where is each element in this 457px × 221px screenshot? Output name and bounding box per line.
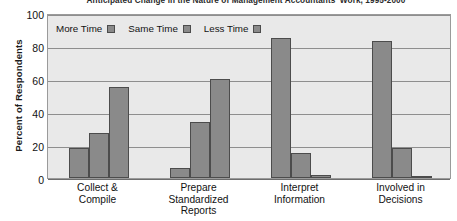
x-category-label: PrepareStandardizedReports bbox=[148, 182, 249, 217]
x-category-label-line: Reports bbox=[148, 205, 249, 217]
bar bbox=[372, 41, 392, 178]
plot-inner: 020406080100 bbox=[48, 15, 450, 178]
x-category-label-line: Decisions bbox=[350, 194, 451, 206]
x-category-label-line: Standardized bbox=[148, 194, 249, 206]
legend-label: Less Time bbox=[204, 23, 249, 34]
bar-group bbox=[250, 15, 351, 178]
plot-area: 020406080100 More TimeSame TimeLess Time bbox=[47, 14, 451, 179]
y-axis-title: Percent of Respondents bbox=[13, 31, 24, 161]
bar bbox=[412, 176, 432, 178]
bar bbox=[311, 175, 331, 178]
y-tick-label: 20 bbox=[32, 141, 44, 153]
bar bbox=[190, 122, 210, 178]
x-category-label-line: Collect & bbox=[47, 182, 148, 194]
chart-legend: More TimeSame TimeLess Time bbox=[56, 23, 261, 34]
y-tick-label: 80 bbox=[32, 42, 44, 54]
bar-group bbox=[48, 15, 149, 178]
gridline-0 bbox=[48, 179, 450, 180]
bar-chart-figure: Anticipated Change in the Nature of Mana… bbox=[0, 0, 457, 221]
legend-swatch bbox=[107, 25, 115, 33]
x-category-label-line: Interpret bbox=[249, 182, 350, 194]
legend-item: More Time bbox=[56, 23, 115, 34]
y-tick-label: 60 bbox=[32, 75, 44, 87]
x-category-label-line: Information bbox=[249, 194, 350, 206]
bar bbox=[170, 168, 190, 178]
legend-swatch bbox=[253, 25, 261, 33]
legend-item: Same Time bbox=[128, 23, 191, 34]
bar bbox=[392, 148, 412, 178]
bar-group bbox=[351, 15, 452, 178]
y-tick-label: 0 bbox=[38, 174, 44, 186]
bar bbox=[69, 148, 89, 178]
chart-title: Anticipated Change in the Nature of Mana… bbox=[46, 0, 446, 6]
bar bbox=[210, 79, 230, 178]
legend-label: Same Time bbox=[128, 23, 178, 34]
bar bbox=[271, 38, 291, 178]
bar bbox=[291, 153, 311, 178]
x-category-label: InterpretInformation bbox=[249, 182, 350, 205]
x-category-label: Involved inDecisions bbox=[350, 182, 451, 205]
legend-swatch bbox=[183, 25, 191, 33]
x-category-label-line: Compile bbox=[47, 194, 148, 206]
bar bbox=[109, 87, 129, 178]
x-axis-category-labels: Collect &CompilePrepareStandardizedRepor… bbox=[47, 182, 451, 221]
x-category-label: Collect &Compile bbox=[47, 182, 148, 205]
legend-item: Less Time bbox=[204, 23, 262, 34]
bar-group bbox=[149, 15, 250, 178]
bar bbox=[89, 133, 109, 178]
y-tick-label: 40 bbox=[32, 108, 44, 120]
x-category-label-line: Involved in bbox=[350, 182, 451, 194]
legend-label: More Time bbox=[56, 23, 102, 34]
y-tick-label: 100 bbox=[26, 9, 44, 21]
x-category-label-line: Prepare bbox=[148, 182, 249, 194]
